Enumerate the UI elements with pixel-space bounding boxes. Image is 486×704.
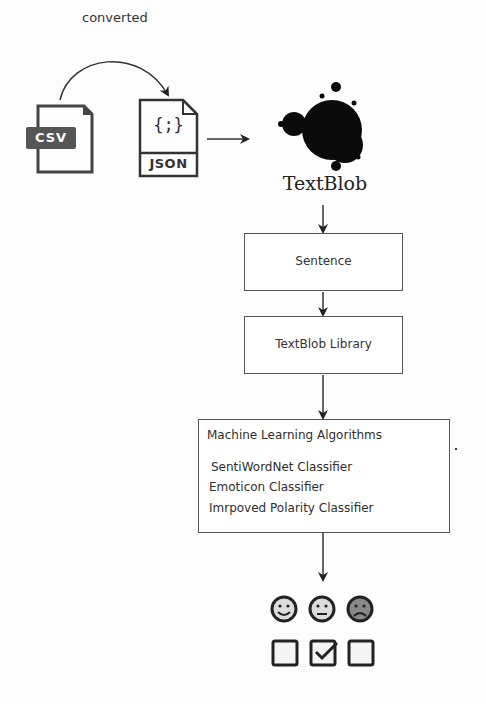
ml-item-polarity: Imrpoved Polarity Classifier — [209, 501, 374, 515]
smiley-neutral-icon — [310, 597, 334, 621]
ml-item-sentiwordnet: SentiWordNet Classifier — [211, 460, 352, 474]
step-library-label: TextBlob Library — [245, 317, 402, 372]
ml-item-emoticon: Emoticon Classifier — [209, 480, 324, 494]
checkbox-neutral-icon — [311, 641, 337, 665]
textblob-logo-label: TextBlob — [270, 172, 380, 194]
converted-label: converted — [82, 10, 148, 25]
step-textblob-library: TextBlob Library — [244, 316, 403, 374]
step-sentence-label: Sentence — [245, 234, 402, 289]
stray-dot — [455, 448, 457, 450]
ml-algorithms-box: Machine Learning Algorithms SentiWordNet… — [198, 419, 450, 533]
json-label: JSON — [140, 156, 197, 171]
smiley-happy-icon — [272, 597, 296, 621]
textblob-logo-icon — [278, 82, 363, 171]
checkbox-positive-icon — [273, 641, 297, 665]
ml-title: Machine Learning Algorithms — [207, 428, 382, 442]
connector-arrows — [0, 0, 486, 704]
json-glyph: {;} — [140, 115, 197, 135]
step-sentence: Sentence — [244, 233, 403, 291]
checkbox-negative-icon — [349, 641, 373, 665]
smiley-sad-icon — [348, 597, 372, 621]
csv-label: CSV — [28, 130, 74, 145]
